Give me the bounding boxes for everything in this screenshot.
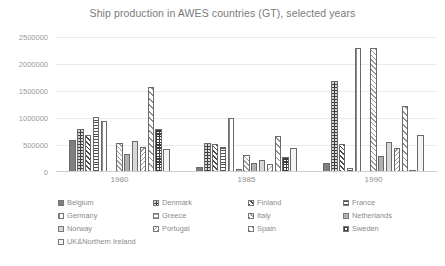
bar[interactable] [124,154,130,172]
legend-item[interactable]: Sweden [343,225,438,232]
legend-item[interactable]: France [343,199,438,206]
bar-group [183,37,310,172]
legend-swatch-icon [58,239,64,245]
legend-label: Netherlands [352,212,392,219]
y-axis-tick-label: 0 [44,168,48,177]
legend-label: Finland [257,199,281,206]
bar[interactable] [378,156,384,172]
y-axis-tick-label: 1500000 [19,87,48,96]
legend-swatch-icon [343,200,349,206]
legend-swatch-icon [248,213,254,219]
legend-label: Greece [162,212,186,219]
legend-item[interactable]: Belgium [58,199,153,206]
legend-swatch-icon [343,226,349,232]
y-axis-tick-label: 2000000 [19,60,48,69]
legend-row: UK&Northern Ireland [58,235,438,248]
bar[interactable] [140,147,146,172]
bar[interactable] [417,135,423,172]
legend-label: Denmark [162,199,192,206]
legend-item[interactable]: Netherlands [343,212,438,219]
bar[interactable] [339,144,345,172]
bar[interactable] [243,155,249,172]
x-axis-tick-label: 1985 [238,175,256,184]
bar[interactable] [77,129,83,172]
bar[interactable] [69,140,75,172]
legend-swatch-icon [153,213,159,219]
legend-swatch-icon [343,213,349,219]
legend-label: Sweden [352,225,379,232]
legend-swatch-icon [58,213,64,219]
legend-label: Belgium [67,199,94,206]
chart-title: Ship production in AWES countries (GT), … [0,7,445,19]
y-axis-labels: 05000001000000150000020000002500000 [0,37,52,172]
legend-label: Italy [257,212,271,219]
legend-swatch-icon [153,226,159,232]
plot-area [56,37,437,172]
bar[interactable] [204,143,210,172]
legend-row: NorwayPortugalSpainSweden [58,222,438,235]
legend-label: Spain [257,225,276,232]
bar[interactable] [163,149,169,172]
legend-swatch-icon [153,200,159,206]
legend-row: GermanyGreeceItalyNetherlands [58,209,438,222]
bar[interactable] [282,157,288,172]
bar[interactable] [85,135,91,172]
bar[interactable] [290,148,296,172]
bar[interactable] [355,48,361,172]
legend-item[interactable]: Denmark [153,199,248,206]
legend-item[interactable]: Portugal [153,225,248,232]
legend-row: BelgiumDenmarkFinlandFrance [58,196,438,209]
bar-groups [56,37,437,172]
legend-label: Norway [67,225,92,232]
legend-swatch-icon [58,226,64,232]
legend-swatch-icon [248,226,254,232]
bar[interactable] [220,147,226,172]
bar[interactable] [132,141,138,172]
bar[interactable] [116,143,122,172]
bar[interactable] [148,87,154,172]
legend-item[interactable]: Germany [58,212,153,219]
legend-label: Germany [67,212,97,219]
chart-container: Ship production in AWES countries (GT), … [0,0,445,266]
y-axis-tick-label: 1000000 [19,114,48,123]
legend-item[interactable]: Greece [153,212,248,219]
bar[interactable] [275,136,281,172]
legend-item[interactable]: UK&Northern Ireland [58,238,153,245]
bar[interactable] [331,81,337,172]
x-axis-line [56,171,437,172]
x-axis-tick-label: 1980 [111,175,129,184]
bar-group [310,37,437,172]
bar[interactable] [370,48,376,172]
chart-legend: BelgiumDenmarkFinlandFranceGermanyGreece… [58,196,438,248]
y-axis-tick-label: 500000 [23,141,48,150]
y-axis-tick-label: 2500000 [19,33,48,42]
x-axis-tick-label: 1990 [365,175,383,184]
legend-item[interactable]: Italy [248,212,343,219]
x-axis-labels: 198019851990 [56,175,437,189]
bar[interactable] [93,117,99,172]
bar[interactable] [155,129,161,172]
legend-item[interactable]: Spain [248,225,343,232]
legend-swatch-icon [248,200,254,206]
bar[interactable] [402,106,408,172]
bar-group [56,37,183,172]
bar[interactable] [101,121,107,172]
legend-label: France [352,199,375,206]
legend-label: UK&Northern Ireland [67,238,136,245]
bar[interactable] [386,142,392,172]
bar[interactable] [228,118,234,172]
bar[interactable] [394,148,400,172]
legend-label: Portugal [162,225,190,232]
legend-swatch-icon [58,200,64,206]
legend-item[interactable]: Norway [58,225,153,232]
bar[interactable] [212,144,218,172]
legend-item[interactable]: Finland [248,199,343,206]
